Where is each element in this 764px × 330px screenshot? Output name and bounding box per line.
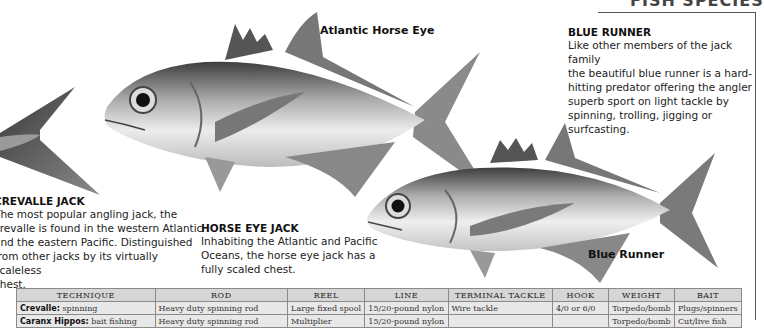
column-header-line: LINE xyxy=(365,289,448,302)
blue-runner-title: BLUE RUNNER xyxy=(568,26,758,38)
horse-eye-jack-line: Oceans, the horse eye jack has a xyxy=(201,248,401,262)
blue-runner-line: surfcasting. xyxy=(568,122,758,136)
crevalle-jack-tail-illustration xyxy=(0,85,110,205)
cell-rod: Heavy duty spinning rod xyxy=(155,315,288,328)
cell-technique: Caranx Hippos: bait fishing xyxy=(17,315,156,328)
column-header-technique: TECHNIQUE xyxy=(17,289,156,302)
column-header-weight: WEIGHT xyxy=(609,289,675,302)
tackle-table: TECHNIQUE ROD REEL LINE TERMINAL TACKLE … xyxy=(16,288,742,328)
cell-bait: Cut/live fish xyxy=(674,315,741,328)
cell-weight: Torpedo/bomb xyxy=(609,302,675,315)
blue-runner-illustration xyxy=(360,118,720,288)
crevalle-jack-line: and the eastern Pacific. Distinguished xyxy=(0,235,204,249)
cell-line: 15/20-pound nylon xyxy=(365,302,448,315)
crevalle-jack-line: from other jacks by its virtually scalel… xyxy=(0,249,204,277)
horse-eye-jack-description: HORSE EYE JACK Inhabiting the Atlantic a… xyxy=(201,222,401,276)
cell-technique: Crevalle: spinning xyxy=(17,302,156,315)
cell-weight: Torpedo/bomb xyxy=(609,315,675,328)
cell-line: 15/20-pound nylon xyxy=(365,315,448,328)
blue-runner-line: superb sport on light tackle by xyxy=(568,94,758,108)
cell-reel: Large fixed spool xyxy=(288,302,365,315)
column-header-rod: ROD xyxy=(155,289,288,302)
label-atlantic-horse-eye: Atlantic Horse Eye xyxy=(320,24,434,37)
label-blue-runner: Blue Runner xyxy=(588,248,664,261)
cell-reel: Multiplier xyxy=(288,315,365,328)
cell-hook xyxy=(552,315,608,328)
cell-bait: Plugs/spinners xyxy=(674,302,741,315)
table-header-row: TECHNIQUE ROD REEL LINE TERMINAL TACKLE … xyxy=(17,289,742,302)
cell-terminal-tackle xyxy=(448,315,552,328)
table-row: Crevalle: spinning Heavy duty spinning r… xyxy=(17,302,742,315)
blue-runner-description: BLUE RUNNER Like other members of the ja… xyxy=(568,26,758,136)
blue-runner-line: spinning, trolling, jigging or xyxy=(568,108,758,122)
crevalle-jack-title: CREVALLE JACK xyxy=(0,195,204,207)
blue-runner-line: hitting predator offering the angler xyxy=(568,80,758,94)
crevalle-jack-line: The most popular angling jack, the xyxy=(0,207,204,221)
cropped-page-heading: FISH SPECIES xyxy=(630,0,764,10)
blue-runner-line: Like other members of the jack family xyxy=(568,38,758,66)
column-header-terminal-tackle: TERMINAL TACKLE xyxy=(448,289,552,302)
column-header-bait: BAIT xyxy=(674,289,741,302)
blue-runner-line: the beautiful blue runner is a hard- xyxy=(568,66,758,80)
horse-eye-jack-line: fully scaled chest. xyxy=(201,262,401,276)
crevalle-jack-line: crevalle is found in the western Atlanti… xyxy=(0,221,204,235)
horse-eye-jack-title: HORSE EYE JACK xyxy=(201,222,401,234)
column-header-reel: REEL xyxy=(288,289,365,302)
column-header-hook: HOOK xyxy=(552,289,608,302)
crevalle-jack-description: CREVALLE JACK The most popular angling j… xyxy=(0,195,204,291)
cell-hook: 4/0 or 6/0 xyxy=(552,302,608,315)
cell-rod: Heavy duty spinning rod xyxy=(155,302,288,315)
horse-eye-jack-line: Inhabiting the Atlantic and Pacific xyxy=(201,234,401,248)
table-row: Caranx Hippos: bait fishing Heavy duty s… xyxy=(17,315,742,328)
cell-terminal-tackle: Wire tackle xyxy=(448,302,552,315)
frame-border-top xyxy=(598,12,756,13)
